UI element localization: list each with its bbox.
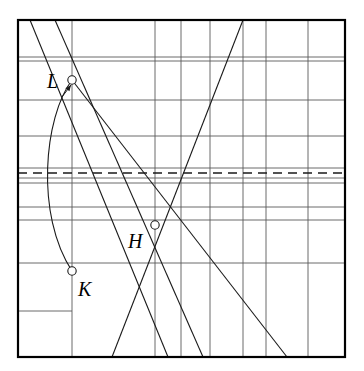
label-H: H [127,230,144,252]
label-L: L [46,70,58,92]
figure-background [0,0,364,371]
figure-canvas: LHK [0,0,364,371]
point-L [68,76,76,84]
point-H [151,221,159,229]
geometry-figure: LHK [0,0,364,371]
label-K: K [77,278,93,300]
point-K [68,267,76,275]
